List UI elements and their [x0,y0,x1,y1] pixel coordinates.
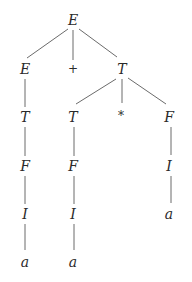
tree-edges [0,0,192,282]
tree-node-nonterminal: E [68,13,78,27]
tree-node-nonterminal: T [117,62,126,76]
tree-node-nonterminal: E [20,62,30,76]
tree-node-nonterminal: I [70,207,76,221]
tree-node-nonterminal: F [68,159,78,173]
tree-node-nonterminal: F [20,159,30,173]
tree-node-operator: * [118,110,124,122]
tree-node-terminal: a [21,255,29,269]
parse-tree-diagram: EE+TTT*FFFIIIaaa [0,0,192,282]
tree-node-nonterminal: T [68,110,77,124]
tree-node-nonterminal: I [166,159,172,173]
tree-edge [128,78,166,104]
tree-node-terminal: a [69,255,77,269]
tree-node-nonterminal: T [20,110,29,124]
tree-edge [79,29,117,57]
tree-edge [76,79,116,104]
tree-node-nonterminal: I [22,207,28,221]
tree-node-operator: + [68,63,78,75]
tree-node-nonterminal: F [164,110,174,124]
tree-edge [27,29,68,58]
tree-node-terminal: a [165,207,173,221]
